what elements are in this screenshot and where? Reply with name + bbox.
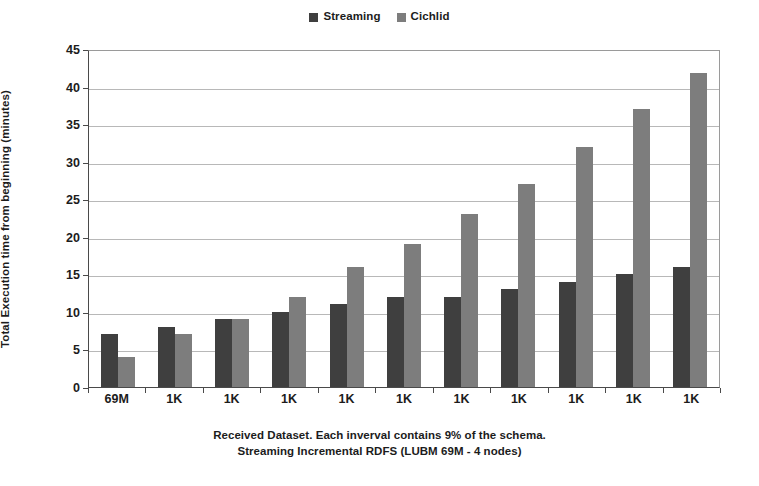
bar-cichlid bbox=[690, 73, 707, 387]
x-axis-tick-label: 1K bbox=[375, 392, 432, 406]
y-axis-tick-label: 15 bbox=[50, 268, 80, 282]
bar-cichlid bbox=[404, 244, 421, 387]
x-axis-tick-label: 1K bbox=[145, 392, 202, 406]
bar-cichlid bbox=[576, 147, 593, 387]
x-axis-caption-line-2: Streaming Incremental RDFS (LUBM 69M - 4… bbox=[0, 444, 759, 460]
x-axis-tick-label: 1K bbox=[318, 392, 375, 406]
bar-cichlid bbox=[232, 319, 249, 387]
y-axis-tick-label: 0 bbox=[50, 381, 80, 395]
legend-label: Streaming bbox=[323, 10, 380, 22]
legend-label: Cichlid bbox=[411, 10, 450, 22]
bar-group bbox=[501, 51, 535, 387]
bar-groups bbox=[89, 51, 719, 387]
bar-cichlid bbox=[347, 267, 364, 387]
square-swatch-icon bbox=[309, 13, 318, 22]
y-axis-tick-label: 10 bbox=[50, 306, 80, 320]
y-axis-tick-label: 30 bbox=[50, 156, 80, 170]
x-axis-tick-label: 1K bbox=[260, 392, 317, 406]
y-axis-tick-label: 25 bbox=[50, 193, 80, 207]
x-axis-tick-label: 1K bbox=[203, 392, 260, 406]
plot-area bbox=[88, 50, 720, 388]
legend-item-streaming: Streaming bbox=[309, 10, 380, 22]
x-axis-tick-label: 1K bbox=[433, 392, 490, 406]
bar-cichlid bbox=[461, 214, 478, 387]
x-axis-tick-mark bbox=[720, 388, 721, 393]
bar-group bbox=[158, 51, 192, 387]
bar-group bbox=[673, 51, 707, 387]
chart-legend: StreamingCichlid bbox=[0, 10, 759, 22]
bar-cichlid bbox=[633, 109, 650, 387]
x-axis-tick-label: 1K bbox=[605, 392, 662, 406]
bar-streaming bbox=[616, 274, 633, 387]
square-swatch-icon bbox=[397, 13, 406, 22]
y-axis-tick-label: 40 bbox=[50, 81, 80, 95]
bar-streaming bbox=[501, 289, 518, 387]
bar-streaming bbox=[158, 327, 175, 387]
bar-group bbox=[559, 51, 593, 387]
y-axis-tick-label: 35 bbox=[50, 118, 80, 132]
y-axis-tick-label: 5 bbox=[50, 343, 80, 357]
bar-group bbox=[444, 51, 478, 387]
x-axis-caption-line-1: Received Dataset. Each inverval contains… bbox=[0, 428, 759, 444]
bar-streaming bbox=[101, 334, 118, 387]
bar-group bbox=[387, 51, 421, 387]
bar-cichlid bbox=[118, 357, 135, 387]
bar-streaming bbox=[330, 304, 347, 387]
x-axis-tick-label: 1K bbox=[548, 392, 605, 406]
bar-group bbox=[272, 51, 306, 387]
x-axis-tick-label: 69M bbox=[88, 392, 145, 406]
x-axis-caption: Received Dataset. Each inverval contains… bbox=[0, 428, 759, 459]
y-axis-tick-label: 45 bbox=[50, 43, 80, 57]
bar-streaming bbox=[272, 312, 289, 387]
bar-streaming bbox=[444, 297, 461, 387]
bar-group bbox=[330, 51, 364, 387]
bar-streaming bbox=[215, 319, 232, 387]
legend-item-cichlid: Cichlid bbox=[397, 10, 450, 22]
x-axis-tick-label: 1K bbox=[490, 392, 547, 406]
y-axis-tick-label: 20 bbox=[50, 231, 80, 245]
bar-streaming bbox=[559, 282, 576, 387]
bar-streaming bbox=[387, 297, 404, 387]
bar-cichlid bbox=[289, 297, 306, 387]
bar-chart: StreamingCichlid Total Execution time fr… bbox=[0, 0, 759, 486]
bar-group bbox=[101, 51, 135, 387]
x-axis-tick-label: 1K bbox=[663, 392, 720, 406]
bar-streaming bbox=[673, 267, 690, 387]
y-axis-title: Total Execution time from beginning (min… bbox=[0, 50, 16, 388]
bar-group bbox=[215, 51, 249, 387]
bar-cichlid bbox=[175, 334, 192, 387]
bar-cichlid bbox=[518, 184, 535, 387]
x-axis-tick-labels: 69M1K1K1K1K1K1K1K1K1K1K bbox=[88, 392, 720, 410]
bar-group bbox=[616, 51, 650, 387]
